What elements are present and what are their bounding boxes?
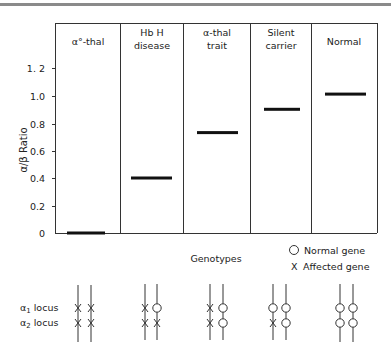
panel-heading: Normal — [327, 36, 361, 47]
ratio-marker — [67, 232, 105, 235]
panel-heading-line2: trait — [207, 40, 227, 51]
panel-headings: α°-thal Hb H disease α-thal trait Silent… — [72, 27, 362, 51]
panel-heading-line2: disease — [134, 40, 170, 51]
alpha-beta-ratio-chart: 1. 2 1.0 0.8 0.6 0.4 0.2 0 α/β Ratio α°-… — [0, 0, 391, 363]
genotype-diagrams — [75, 284, 357, 342]
locus-labels: α1locus α2locus — [20, 302, 58, 330]
x-axis-label: Genotypes — [190, 253, 241, 264]
ratio-markers — [67, 93, 366, 235]
panel-heading: α-thal — [203, 27, 231, 38]
y-axis-label: α/β Ratio — [18, 127, 29, 172]
ratio-marker — [197, 131, 238, 134]
normal-gene-circle-icon — [290, 246, 299, 255]
legend-affected-label: Affected gene — [303, 261, 370, 272]
ratio-marker — [325, 93, 366, 96]
plot-frame — [55, 23, 378, 234]
y-axis-tick-labels: 1. 2 1.0 0.8 0.6 0.4 0.2 0 — [27, 63, 45, 239]
ratio-marker — [131, 177, 172, 180]
tick-label: 0.2 — [30, 201, 45, 212]
normal-gene-icon — [349, 319, 357, 327]
tick-label: 1. 2 — [27, 63, 45, 74]
normal-gene-icon — [219, 319, 227, 327]
legend-normal-label: Normal gene — [304, 245, 365, 256]
normal-gene-icon — [336, 304, 344, 312]
legend-affected-symbol: X — [291, 261, 298, 272]
normal-gene-icon — [269, 304, 277, 312]
normal-gene-icon — [219, 304, 227, 312]
ratio-marker — [264, 108, 300, 111]
alpha1-locus-label: α1locus — [20, 302, 58, 315]
alpha2-locus-label: α2locus — [20, 317, 58, 330]
tick-label: 0.4 — [30, 173, 45, 184]
panel-heading-line2: carrier — [265, 40, 296, 51]
panel-heading: Silent — [268, 27, 295, 38]
normal-gene-icon — [282, 304, 290, 312]
tick-label: 0 — [39, 228, 45, 239]
tick-label: 0.8 — [30, 119, 45, 130]
legend: Normal gene X Affected gene — [290, 245, 370, 272]
panel-heading: α°-thal — [72, 36, 105, 47]
tick-label: 0.6 — [30, 146, 45, 157]
normal-gene-icon — [336, 319, 344, 327]
normal-gene-icon — [282, 319, 290, 327]
normal-gene-icon — [153, 304, 161, 312]
tick-label: 1.0 — [30, 91, 45, 102]
panel-heading: Hb H — [140, 27, 163, 38]
normal-gene-icon — [349, 304, 357, 312]
